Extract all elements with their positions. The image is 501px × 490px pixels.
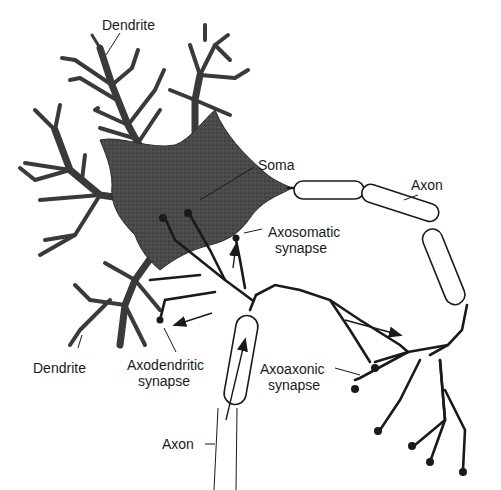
label-axosomatic-line2: synapse (275, 240, 327, 256)
signal-direction-arrows (175, 245, 400, 420)
label-axosomatic-line1: Axosomatic (268, 224, 340, 240)
label-axodendritic-line2: synapse (138, 373, 190, 389)
label-soma: Soma (258, 157, 295, 173)
neuron-diagram: Dendrite Soma Axon Axosomatic synapse De… (0, 0, 501, 490)
dendrite-tree-lower-left (70, 245, 160, 345)
axon-terminals-right (351, 345, 467, 476)
label-dendrite-bottom: Dendrite (33, 360, 86, 376)
label-axoaxonic-line1: Axoaxonic (260, 361, 325, 377)
label-dendrite-top: Dendrite (102, 17, 155, 33)
label-axon-bottom: Axon (162, 436, 194, 452)
label-axoaxonic-line2: synapse (268, 377, 320, 393)
arrow-left-icon (175, 313, 212, 325)
label-axodendritic-line1: Axodendritic (127, 357, 204, 373)
label-axon-top: Axon (411, 177, 443, 193)
soma-cell-body (100, 110, 292, 270)
arrow-up-icon (233, 245, 236, 268)
